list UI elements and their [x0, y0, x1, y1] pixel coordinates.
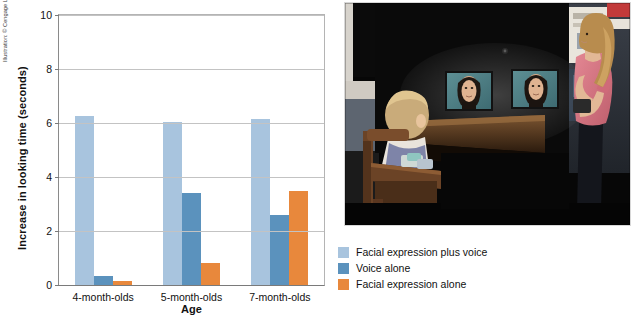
legend-swatch-icon	[338, 263, 349, 274]
y-tick-mark	[55, 285, 59, 286]
bars-layer: 4-month-olds5-month-olds7-month-olds	[59, 15, 324, 285]
bar-group	[236, 15, 324, 285]
x-tick-label: 4-month-olds	[73, 291, 134, 303]
figure-root: Illustration: © Cengage Learning®; photo…	[0, 0, 639, 334]
bar	[94, 276, 113, 285]
x-tick-label: 5-month-olds	[161, 291, 222, 303]
legend-item: Voice alone	[338, 261, 538, 275]
y-tick-mark	[55, 231, 59, 232]
x-axis-title: Age	[58, 303, 325, 315]
plot-area: 4-month-olds5-month-olds7-month-olds 024…	[58, 14, 325, 286]
legend-label: Facial expression plus voice	[356, 246, 487, 258]
bar	[270, 215, 289, 285]
gridline	[59, 123, 324, 124]
legend-item: Facial expression plus voice	[338, 245, 538, 259]
y-tick-mark	[55, 177, 59, 178]
legend-label: Facial expression alone	[356, 278, 466, 290]
bar	[163, 122, 182, 285]
bar	[113, 281, 132, 285]
y-tick-label: 10	[40, 9, 52, 21]
photo-illustration	[345, 3, 630, 225]
gridline	[59, 231, 324, 232]
legend-label: Voice alone	[356, 262, 410, 274]
bar-chart: Increase in looking time (seconds) 4-mon…	[0, 0, 336, 334]
legend-swatch-icon	[338, 279, 349, 290]
legend-swatch-icon	[338, 247, 349, 258]
y-tick-mark	[55, 69, 59, 70]
bar	[201, 263, 220, 285]
gridline	[59, 69, 324, 70]
gridline	[59, 15, 324, 16]
y-tick-label: 8	[46, 63, 52, 75]
bar-group	[59, 15, 147, 285]
lab-photograph	[345, 3, 630, 225]
y-axis-title: Increase in looking time (seconds)	[16, 43, 28, 273]
x-tick-label: 7-month-olds	[249, 291, 310, 303]
bar	[182, 193, 201, 285]
y-tick-label: 4	[46, 171, 52, 183]
y-tick-label: 0	[46, 279, 52, 291]
legend-item: Facial expression alone	[338, 277, 538, 291]
chart-legend: Facial expression plus voiceVoice aloneF…	[338, 245, 538, 293]
gridline	[59, 177, 324, 178]
bar	[75, 116, 94, 285]
y-tick-mark	[55, 123, 59, 124]
bar	[289, 191, 308, 286]
bar-group	[147, 15, 235, 285]
y-tick-label: 6	[46, 117, 52, 129]
y-tick-mark	[55, 15, 59, 16]
y-tick-label: 2	[46, 225, 52, 237]
bar	[251, 119, 270, 285]
